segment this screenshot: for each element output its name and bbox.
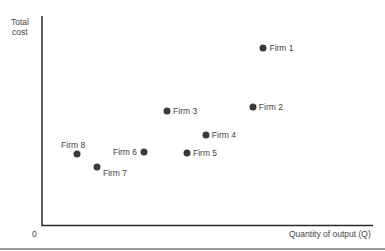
bottom-divider	[0, 248, 385, 250]
scatter-chart: Total cost 0 Quantity of output (Q) Firm…	[0, 0, 385, 251]
data-point-marker	[74, 150, 81, 157]
chart-axes	[0, 0, 385, 251]
data-point-label: Firm 8	[61, 140, 85, 150]
data-point-label: Firm 1	[269, 43, 293, 53]
data-point-label: Firm 5	[193, 148, 217, 158]
x-axis-label: Quantity of output (Q)	[289, 229, 371, 239]
data-point-marker	[164, 107, 171, 114]
data-point-marker	[260, 45, 267, 52]
data-point-label: Firm 3	[173, 106, 197, 116]
data-point-marker	[140, 148, 147, 155]
data-point-label: Firm 6	[113, 147, 137, 157]
data-point-label: Firm 2	[259, 102, 283, 112]
origin-label: 0	[32, 229, 37, 239]
data-point-marker	[249, 103, 256, 110]
data-point-label: Firm 7	[103, 168, 127, 178]
y-axis-label-line2: cost	[12, 27, 28, 37]
data-point-marker	[93, 163, 100, 170]
data-point-label: Firm 4	[212, 130, 236, 140]
data-point-marker	[202, 131, 209, 138]
y-axis-label-line1: Total	[11, 17, 29, 27]
data-point-marker	[183, 149, 190, 156]
